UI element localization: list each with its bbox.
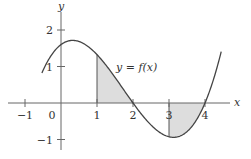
y-axis-label: y bbox=[57, 0, 65, 13]
curve-label: y = f(x) bbox=[115, 61, 157, 74]
x-tick-label: 1 bbox=[94, 109, 101, 122]
x-tick-label: 2 bbox=[130, 109, 137, 122]
function-curve bbox=[42, 40, 221, 137]
x-tick-label: −1 bbox=[17, 109, 33, 122]
x-axis-label: x bbox=[234, 96, 241, 109]
x-tick-label: 0 bbox=[49, 109, 56, 122]
x-tick-label: 3 bbox=[166, 109, 173, 122]
y-tick-label: −1 bbox=[37, 134, 53, 147]
y-tick-label: 2 bbox=[46, 24, 53, 37]
function-graph: −101234 21−1 x y y = f(x) bbox=[0, 0, 251, 159]
x-tick-label: 4 bbox=[202, 109, 209, 122]
